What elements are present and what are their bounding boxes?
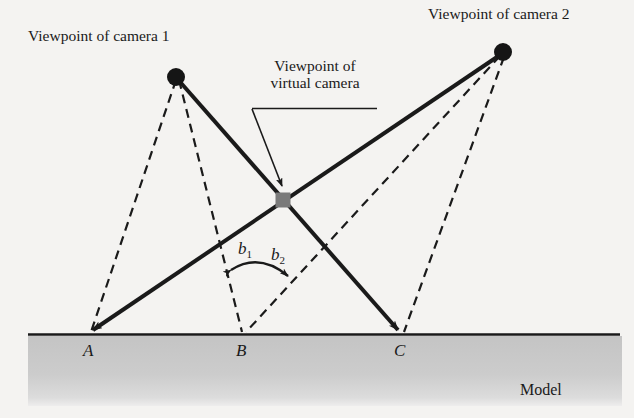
camera2-node bbox=[494, 43, 512, 61]
angle-label-b2: b2 bbox=[271, 245, 285, 267]
dashed-ray-cam2-to-c bbox=[404, 57, 504, 332]
virtual-camera-label-line1: Viewpoint of bbox=[252, 57, 378, 74]
angle-label-b1-sub: 1 bbox=[247, 248, 253, 260]
virtual-camera-label: Viewpoint of virtual camera bbox=[252, 57, 378, 92]
camera1-label: Viewpoint of camera 1 bbox=[28, 27, 170, 44]
camera1-node bbox=[167, 68, 185, 86]
solid-ray-cam2-to-a bbox=[93, 57, 497, 330]
point-label-c: C bbox=[394, 341, 405, 360]
angle-label-b1-base: b bbox=[238, 239, 247, 258]
virtual-label-leader bbox=[252, 109, 282, 186]
camera2-label: Viewpoint of camera 2 bbox=[428, 5, 570, 22]
point-label-b: B bbox=[236, 341, 246, 360]
virtual-camera-node bbox=[276, 193, 291, 208]
figure-canvas: Viewpoint of camera 1 Viewpoint of camer… bbox=[0, 0, 634, 418]
model-label: Model bbox=[520, 381, 562, 399]
virtual-camera-label-line2: virtual camera bbox=[252, 74, 378, 91]
angle-label-b2-sub: 2 bbox=[280, 254, 286, 266]
angle-label-b1: b1 bbox=[238, 239, 252, 261]
dashed-ray-cam1-to-a bbox=[91, 80, 176, 332]
angle-label-b2-base: b bbox=[271, 245, 280, 264]
point-label-a: A bbox=[83, 341, 93, 360]
